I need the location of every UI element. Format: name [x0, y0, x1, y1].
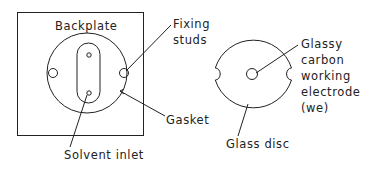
glassy-carbon-electrode	[247, 69, 258, 80]
fixing-studs-label-line1: Fixing	[173, 17, 210, 31]
solvent-inlet-leader	[70, 95, 87, 147]
solvent-slot	[77, 43, 100, 103]
fixing-stud-left	[49, 69, 58, 78]
electrode-label-line3: working	[301, 69, 351, 83]
glass-disc-leader	[238, 104, 248, 136]
fixing-studs-label-line2: studs	[173, 33, 207, 47]
electrode-leader	[256, 45, 298, 73]
gasket-label: Gasket	[166, 113, 209, 127]
slot-hole-top	[87, 53, 91, 57]
gasket-leader	[120, 91, 165, 116]
fixing-studs-leader	[126, 25, 171, 71]
gasket	[47, 33, 127, 113]
diagram-canvas: Backplate Fixing studs Gasket Solvent in…	[0, 0, 377, 170]
electrode-label-line1: Glassy	[301, 37, 343, 51]
electrode-label-line2: carbon	[301, 53, 344, 67]
slot-hole-bottom	[87, 91, 91, 95]
electrode-label-line5: (we)	[301, 101, 329, 115]
electrode-label-line4: electrode	[301, 85, 360, 99]
glass-disc-label: Glass disc	[226, 137, 290, 151]
backplate-label: Backplate	[55, 19, 117, 33]
solvent-inlet-label: Solvent inlet	[64, 148, 144, 162]
glass-disc	[215, 40, 291, 108]
